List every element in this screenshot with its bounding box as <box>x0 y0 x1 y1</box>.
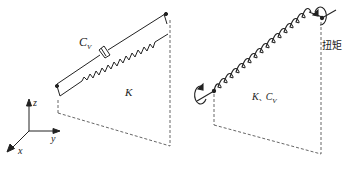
coil-spring-icon <box>214 9 322 91</box>
x-axis-arrow-icon <box>7 144 15 152</box>
left-projection-lines <box>58 20 170 146</box>
damper-icon <box>99 46 110 58</box>
stiffness-label: K <box>252 91 259 102</box>
torsion-spring-element <box>195 7 336 104</box>
left-torque-arrow-icon <box>195 84 214 104</box>
damper-rod-right <box>108 14 165 50</box>
damper-label: CV <box>79 36 91 51</box>
damping-subscript: V <box>272 97 276 105</box>
z-axis-label: z <box>33 98 37 108</box>
diagram-canvas <box>0 0 345 172</box>
damper-label-main: C <box>79 35 87 49</box>
z-axis-arrow-icon <box>27 99 32 106</box>
stiffness-damping-label: K、CV <box>252 92 277 105</box>
right-torque-arrow-icon <box>313 7 336 25</box>
spring-damper-element <box>55 12 168 96</box>
y-axis-label: y <box>51 134 55 144</box>
torque-label: 扭矩 <box>322 41 342 51</box>
right-projection-lines <box>214 22 321 154</box>
spring-icon <box>60 34 168 96</box>
separator: 、 <box>259 94 266 102</box>
x-axis-label: x <box>18 146 22 156</box>
spring-label: K <box>125 87 132 98</box>
damper-rod-left <box>57 55 100 84</box>
damper-label-subscript: V <box>87 43 91 51</box>
